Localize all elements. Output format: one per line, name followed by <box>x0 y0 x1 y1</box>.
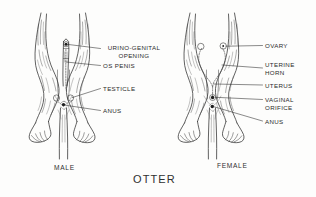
female-anus-marker <box>211 105 214 108</box>
label-anus-female: ANUS <box>265 118 315 126</box>
label-uterus: UTERUS <box>265 82 315 90</box>
male-midline-right <box>68 70 69 99</box>
otter-anatomy-plate: .o { fill:none; stroke:#2e2e2e; stroke-w… <box>0 0 316 197</box>
male-left-hindleg <box>29 13 59 142</box>
leader-vaginal-orifice <box>215 97 262 99</box>
leader-uterus <box>214 84 263 85</box>
female-right-hindleg <box>215 13 244 143</box>
urino-genital-opening-marker <box>65 43 68 46</box>
label-anus-male: ANUS <box>103 107 165 115</box>
female-left-hindleg <box>178 13 208 142</box>
male-tail <box>59 108 67 159</box>
female-reproductive-tract-dashed <box>199 48 226 96</box>
male-right-hindleg <box>66 13 95 143</box>
leader-testicle <box>72 89 100 98</box>
male-anus-marker <box>62 103 65 106</box>
leader-ovary <box>226 46 263 47</box>
label-testicle: TESTICLE <box>103 85 165 93</box>
label-urino-genital-opening: URINO-GENITAL OPENING <box>103 44 165 59</box>
plate-title: OTTER <box>133 173 176 185</box>
leader-urino-genital-opening <box>68 44 101 48</box>
label-vaginal-orifice: VAGINAL ORIFICE <box>265 96 315 111</box>
leader-os-penis <box>66 62 101 66</box>
vaginal-orifice-marker <box>211 96 214 99</box>
label-ovary: OVARY <box>265 42 315 50</box>
ovary-right-dot <box>222 45 224 47</box>
caption-male: MALE <box>54 164 75 171</box>
leader-uterine-horn <box>222 65 263 68</box>
female-figure <box>178 13 262 159</box>
label-uterine-horn: UTERINE HORN <box>265 61 315 76</box>
male-figure <box>29 13 100 159</box>
caption-female: FEMALE <box>217 162 248 169</box>
label-os-penis: OS PENIS <box>103 62 165 70</box>
female-tail <box>208 108 216 159</box>
ovary-left-marker <box>198 43 204 49</box>
leader-anus-female <box>214 107 262 121</box>
